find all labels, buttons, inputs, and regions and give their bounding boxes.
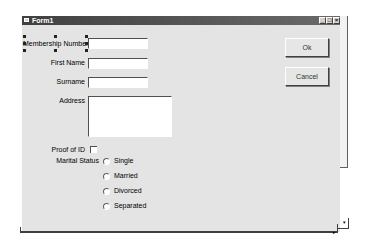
selection-handle-icon[interactable] bbox=[85, 49, 88, 52]
scroll-down-arrow-icon[interactable]: ▾ bbox=[343, 220, 346, 225]
scroll-right-arrow-icon[interactable]: ▸ bbox=[333, 230, 336, 235]
first-name-input[interactable] bbox=[88, 58, 148, 69]
address-label: Address bbox=[30, 96, 85, 105]
radio-separated[interactable]: Separated bbox=[103, 201, 146, 211]
form-resize-edge[interactable] bbox=[340, 16, 348, 168]
selection-handle-icon[interactable] bbox=[54, 49, 57, 52]
selection-handle-icon[interactable] bbox=[23, 42, 26, 45]
radio-married[interactable]: Married bbox=[103, 171, 138, 181]
window-title: Form1 bbox=[32, 16, 53, 25]
selection-handle-icon[interactable] bbox=[23, 35, 26, 38]
radio-button-icon[interactable] bbox=[103, 203, 110, 210]
horizontal-scrollbar[interactable] bbox=[20, 231, 338, 233]
membership-number-input[interactable] bbox=[88, 38, 148, 49]
address-textarea[interactable] bbox=[88, 96, 172, 137]
selection-handle-icon[interactable] bbox=[54, 35, 57, 38]
scrollbar-corner bbox=[338, 228, 349, 229]
radio-button-icon[interactable] bbox=[103, 158, 110, 165]
form-icon bbox=[24, 18, 29, 22]
marital-status-label: Marital Status bbox=[30, 156, 99, 165]
maximize-button[interactable]: □ bbox=[326, 17, 333, 24]
radio-divorced[interactable]: Divorced bbox=[103, 186, 142, 196]
vertical-scrollbar-edge bbox=[348, 218, 349, 228]
radio-single[interactable]: Single bbox=[103, 156, 133, 166]
surname-label: Surname bbox=[30, 77, 85, 86]
cancel-button[interactable]: Cancel bbox=[285, 67, 329, 86]
first-name-label: First Name bbox=[30, 58, 85, 67]
form-title-bar[interactable]: Form1 _ □ × bbox=[22, 16, 342, 25]
selection-handle-icon[interactable] bbox=[23, 49, 26, 52]
minimize-button[interactable]: _ bbox=[319, 17, 326, 24]
horizontal-scrollbar-left-edge bbox=[20, 227, 21, 233]
radio-button-icon[interactable] bbox=[103, 173, 110, 180]
proof-of-id-label: Proof of ID bbox=[30, 145, 85, 154]
ok-button[interactable]: Ok bbox=[285, 38, 329, 57]
close-button[interactable]: × bbox=[333, 17, 340, 24]
membership-number-label[interactable]: Membership Number bbox=[23, 39, 85, 48]
surname-input[interactable] bbox=[88, 77, 148, 88]
proof-of-id-checkbox[interactable] bbox=[90, 146, 97, 153]
radio-button-icon[interactable] bbox=[103, 188, 110, 195]
